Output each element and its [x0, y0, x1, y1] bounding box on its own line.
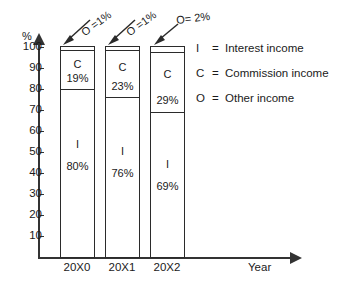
x-tick-label-20X0: 20X0 [52, 261, 102, 273]
bar-20X2: C 29% I 69% [150, 46, 185, 258]
bar-20X2-segment-I-value: 69% [151, 180, 184, 192]
legend-key-I: I [196, 42, 208, 54]
x-axis-arrow-icon [290, 252, 302, 264]
bar-20X0-divider-C-I [61, 89, 94, 90]
bar-20X1-divider-C-I [106, 97, 139, 98]
bar-20X2-segment-I-key: I [151, 158, 184, 170]
legend-label-commission-income: Commission income [225, 67, 329, 79]
bar-20X1-divider-O-C [106, 50, 139, 51]
y-tick-label-50: 50 [2, 146, 42, 158]
bar-20X0-segment-C-value: 19% [61, 72, 94, 84]
bar-20X2-divider-O-C [151, 52, 184, 53]
callout-label-20X2: O= 2% [176, 10, 211, 26]
legend-key-O: O [196, 92, 208, 104]
bar-20X0: C 19% I 80% [60, 46, 95, 258]
bar-20X1: C 23% I 76% [105, 46, 140, 258]
y-tick-label-90: 90 [2, 62, 42, 74]
legend-key-C: C [196, 67, 208, 79]
bar-20X1-segment-C-value: 23% [106, 80, 139, 92]
y-tick-label-100: 100 [2, 41, 42, 53]
legend-equals-O: = [212, 92, 219, 104]
bar-20X0-segment-I-key: I [61, 138, 94, 150]
bar-20X0-divider-O-C [61, 50, 94, 51]
y-tick-label-40: 40 [2, 167, 42, 179]
bar-20X2-segment-C-key: C [151, 68, 184, 80]
bar-20X1-segment-I-value: 76% [106, 167, 139, 179]
bar-20X0-segment-C-key: C [61, 58, 94, 70]
percentage-stacked-bar-chart: % 100 90 80 70 60 50 40 30 20 10 C 19% I… [0, 0, 340, 285]
bar-20X2-segment-C-value: 29% [151, 94, 184, 106]
x-tick-label-20X2: 20X2 [142, 261, 192, 273]
y-tick-label-70: 70 [2, 104, 42, 116]
bar-20X2-divider-C-I [151, 112, 184, 113]
bar-20X1-segment-C-key: C [106, 61, 139, 73]
y-tick-label-60: 60 [2, 125, 42, 137]
legend-equals-C: = [212, 67, 219, 79]
x-axis-title: Year [248, 261, 271, 273]
bar-20X1-segment-I-key: I [106, 145, 139, 157]
x-tick-label-20X1: 20X1 [97, 261, 147, 273]
y-tick-label-10: 10 [2, 230, 42, 242]
bar-20X0-segment-I-value: 80% [61, 160, 94, 172]
y-tick-label-80: 80 [2, 83, 42, 95]
y-tick-label-20: 20 [2, 209, 42, 221]
legend-label-interest-income: Interest income [225, 42, 304, 54]
legend-equals-I: = [212, 42, 219, 54]
y-tick-label-30: 30 [2, 188, 42, 200]
legend-label-other-income: Other income [225, 92, 294, 104]
